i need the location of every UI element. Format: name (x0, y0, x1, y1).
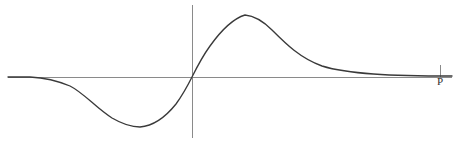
x-axis-label: P (437, 76, 443, 87)
dispersion-curve-figure: P (0, 0, 455, 143)
plot-canvas (0, 0, 455, 143)
dispersion-curve-line (8, 15, 452, 127)
